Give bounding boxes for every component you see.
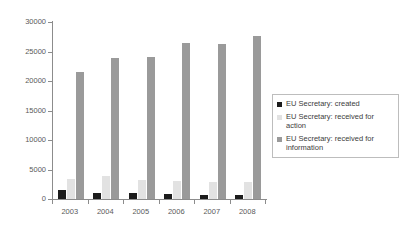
bar-2008-series-2 [253,36,261,199]
legend-item-1: EU Secretary: received for action [277,112,395,131]
y-axis-tick-label: 30000 [25,18,46,26]
x-axis-tick [194,200,195,204]
bar-2003-series-1 [67,179,75,199]
bar-2004-series-0 [93,193,101,199]
bar-2007-series-0 [200,195,208,199]
bar-2006-series-0 [164,194,172,199]
legend-item-0: EU Secretary: created [277,99,395,109]
x-axis-label-2005: 2005 [123,207,159,216]
bar-2004-series-2 [111,58,119,199]
y-axis-tick-label: 0 [42,195,46,203]
legend-label: EU Secretary: received for action [286,112,395,131]
bar-2005-series-0 [129,193,137,199]
bar-2005-series-2 [147,57,155,199]
legend-swatch-icon [277,137,282,142]
x-axis-tick [265,200,266,204]
x-axis-label-2004: 2004 [88,207,124,216]
y-axis-tick-label: 20000 [25,77,46,85]
bar-2008-series-1 [244,182,252,199]
y-axis-tick-label: 10000 [25,136,46,144]
plot-area [53,22,266,199]
legend-swatch-icon [277,102,282,107]
y-axis-tick-label: 15000 [25,107,46,115]
bar-2008-series-0 [235,195,243,199]
legend-item-2: EU Secretary: received for information [277,134,395,153]
bar-2006-series-1 [173,181,181,199]
x-axis-tick [159,200,160,204]
bar-2007-series-1 [209,182,217,199]
chart-legend: EU Secretary: createdEU Secretary: recei… [272,94,399,158]
x-axis-label-2007: 2007 [194,207,230,216]
bar-2004-series-1 [102,176,110,199]
legend-label: EU Secretary: received for information [286,134,395,153]
bar-2006-series-2 [182,43,190,199]
x-axis-label-2008: 2008 [230,207,266,216]
x-axis-tick [88,200,89,204]
x-axis-tick [52,200,53,204]
y-axis-tick-label: 25000 [25,48,46,56]
bar-2003-series-2 [76,72,84,199]
bar-chart: 050001000015000200002500030000 200320042… [0,0,417,234]
x-axis-tick [123,200,124,204]
bar-2007-series-2 [218,44,226,199]
x-axis-label-2006: 2006 [159,207,195,216]
bar-2003-series-0 [58,190,66,199]
legend-swatch-icon [277,115,282,120]
bar-2005-series-1 [138,180,146,199]
x-axis-label-2003: 2003 [52,207,88,216]
legend-label: EU Secretary: created [286,99,360,109]
x-axis-tick [230,200,231,204]
y-axis-tick-label: 5000 [29,166,46,174]
